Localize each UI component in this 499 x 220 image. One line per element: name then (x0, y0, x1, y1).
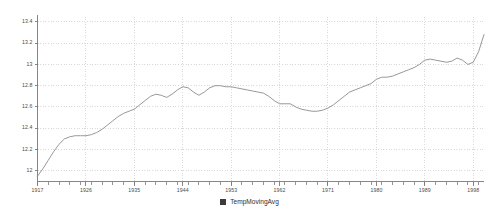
x-axis-tick-label: 1998 (458, 188, 488, 193)
y-axis-tick-label: 12 (0, 168, 33, 173)
y-axis-tick-label: 13 (0, 62, 33, 67)
y-axis-tick-label: 12.8 (0, 83, 33, 88)
legend-label-tempmovingavg: TempMovingAvg (230, 199, 279, 206)
y-axis-tick-label: 12.2 (0, 147, 33, 152)
legend-swatch-tempmovingavg (220, 199, 226, 205)
x-axis-tick-label: 1980 (361, 188, 391, 193)
x-axis-tick-label: 1926 (71, 188, 101, 193)
x-axis-tick-label: 1989 (410, 188, 440, 193)
y-axis-tick-label: 13.4 (0, 19, 33, 24)
y-axis-tick-label: 13.2 (0, 40, 33, 45)
x-axis-tick-label: 1944 (168, 188, 198, 193)
y-axis-tick-label: 12.6 (0, 104, 33, 109)
x-axis-tick-label: 1962 (265, 188, 295, 193)
y-axis-tick-label: 12.4 (0, 125, 33, 130)
x-axis-tick-label: 1917 (23, 188, 53, 193)
x-axis-tick-label: 1971 (313, 188, 343, 193)
x-axis-tick-label: 1935 (119, 188, 149, 193)
chart-container: 13.413.21312.812.612.412.212 19171926193… (0, 0, 499, 220)
x-axis-tick-label: 1953 (216, 188, 246, 193)
chart-legend: TempMovingAvg (0, 199, 499, 206)
